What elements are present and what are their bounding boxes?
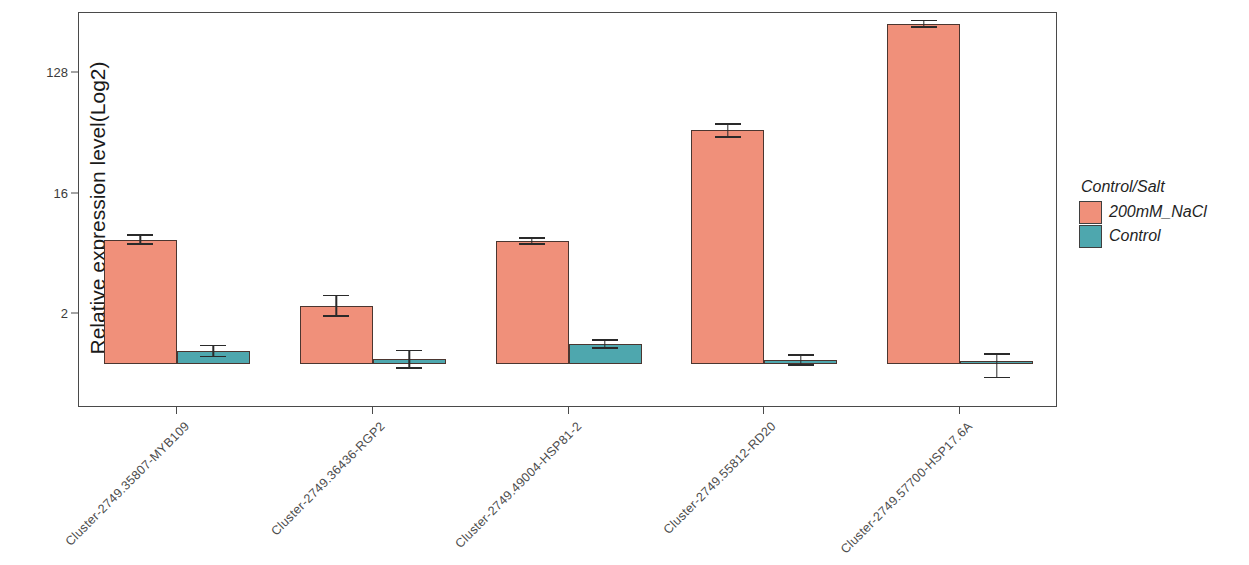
legend-item-label: 200mM_NaCl: [1109, 203, 1207, 221]
errorbar-cap-top: [911, 20, 937, 22]
plot-panel: [78, 12, 1057, 407]
legend-item-control[interactable]: Control: [1079, 224, 1249, 248]
errorbar-cap-top: [788, 354, 814, 356]
legend-swatch-icon: [1079, 225, 1102, 248]
errorbar-cap-top: [715, 123, 741, 125]
x-tick-mark-4: [763, 407, 764, 414]
legend-items: 200mM_NaClControl: [1079, 200, 1249, 248]
x-tick-mark-5: [959, 407, 960, 414]
bar-nacl-1: [104, 240, 177, 364]
legend-item-label: Control: [1109, 227, 1161, 245]
errorbar-cap-bottom: [396, 367, 422, 369]
bar-chart-figure: Relative expression level(Log2) 128162 C…: [0, 0, 1249, 565]
errorbar-cap-top: [592, 339, 618, 341]
errorbar-cap-top: [323, 295, 349, 297]
x-tick-label-4: Cluster-2749.55812-RD20: [661, 419, 779, 537]
errorbar-cap-top: [200, 345, 226, 347]
errorbar-cap-bottom: [715, 136, 741, 138]
errorbar-nacl-5: [911, 20, 937, 28]
bar-nacl-3: [496, 241, 569, 364]
errorbar-control-3: [592, 339, 618, 349]
errorbar-nacl-3: [519, 237, 545, 244]
errorbar-cap-top: [984, 353, 1010, 355]
errorbar-control-5: [984, 353, 1010, 378]
x-tick-mark-2: [372, 407, 373, 414]
x-tick-label-1: Cluster-2749.35807-MYB109: [63, 419, 193, 549]
errorbar-cap-top: [519, 237, 545, 239]
errorbar-stem: [408, 350, 409, 369]
errorbar-stem: [996, 353, 997, 378]
y-tick-mark-128: [71, 72, 78, 73]
x-tick-label-5: Cluster-2749.57700-HSP17.6A: [838, 419, 975, 556]
errorbar-cap-top: [396, 350, 422, 352]
bar-nacl-5: [887, 24, 960, 364]
errorbar-nacl-2: [323, 295, 349, 317]
legend-item-nacl[interactable]: 200mM_NaCl: [1079, 200, 1249, 224]
y-tick-mark-2: [71, 313, 78, 314]
y-tick-label-128: 128: [28, 65, 68, 80]
x-tick-label-2: Cluster-2749.36436-RGP2: [268, 419, 387, 538]
x-tick-label-3: Cluster-2749.49004-HSP81-2: [452, 419, 584, 551]
y-tick-label-2: 2: [28, 306, 68, 321]
errorbar-control-2: [396, 350, 422, 369]
errorbar-cap-bottom: [788, 364, 814, 366]
errorbar-cap-top: [127, 234, 153, 236]
errorbar-control-1: [200, 345, 226, 358]
errorbar-control-4: [788, 354, 814, 365]
legend-title: Control/Salt: [1079, 178, 1249, 196]
x-tick-mark-1: [176, 407, 177, 414]
bar-nacl-4: [691, 130, 764, 364]
errorbar-cap-bottom: [984, 377, 1010, 379]
y-tick-label-16: 16: [28, 185, 68, 200]
errorbar-stem: [335, 295, 336, 317]
errorbar-cap-bottom: [200, 356, 226, 358]
errorbar-cap-bottom: [323, 315, 349, 317]
errorbar-cap-bottom: [911, 26, 937, 28]
errorbar-nacl-1: [127, 234, 153, 244]
errorbar-cap-bottom: [519, 243, 545, 245]
x-tick-mark-3: [568, 407, 569, 414]
errorbar-cap-bottom: [592, 347, 618, 349]
chart-legend: Control/Salt 200mM_NaClControl: [1079, 178, 1249, 248]
legend-swatch-icon: [1079, 201, 1102, 224]
errorbar-nacl-4: [715, 123, 741, 138]
y-tick-mark-16: [71, 192, 78, 193]
errorbar-cap-bottom: [127, 243, 153, 245]
